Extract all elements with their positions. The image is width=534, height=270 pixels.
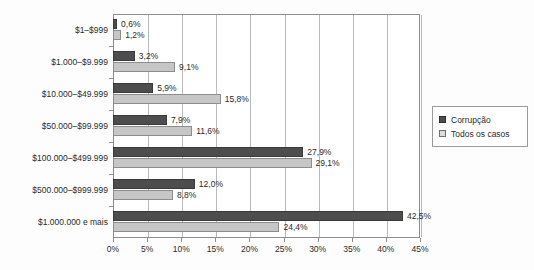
bar-value-label: 1,2% xyxy=(125,30,144,40)
y-axis-tick xyxy=(109,110,113,111)
bar-corrupcao xyxy=(113,147,303,157)
legend-label: Todos os casos xyxy=(451,129,510,139)
legend-swatch-icon xyxy=(439,116,446,123)
x-axis-tick-label: 40% xyxy=(369,244,403,254)
y-axis-labels: $1–$999$1.000–$9.999$10.000–$49.999$50.0… xyxy=(0,14,108,238)
bar-value-label: 15,8% xyxy=(225,94,249,104)
y-axis-tick xyxy=(109,142,113,143)
bar-todos-os-casos xyxy=(113,190,173,200)
x-axis-tick-label: 30% xyxy=(301,244,335,254)
chart-page: 0,6%1,2%3,2%9,1%5,9%15,8%7,9%11,6%27,9%2… xyxy=(0,0,534,270)
x-axis-tick-label: 35% xyxy=(335,244,369,254)
bar-group: 7,9%11,6% xyxy=(113,110,420,142)
bar-group: 27,9%29,1% xyxy=(113,142,420,174)
bar-value-label: 3,2% xyxy=(139,51,158,61)
bar-todos-os-casos xyxy=(113,62,175,72)
y-axis-tick xyxy=(109,78,113,79)
y-axis-tick xyxy=(109,174,113,175)
legend-entry: Todos os casos xyxy=(439,127,521,140)
bar-value-label: 29,1% xyxy=(316,158,340,168)
bar-corrupcao xyxy=(113,19,117,29)
bar-todos-os-casos xyxy=(113,126,192,136)
bar-value-label: 5,9% xyxy=(157,83,176,93)
y-axis-tick-label: $1.000.000 e mais xyxy=(0,206,108,238)
x-axis-tick-label: 25% xyxy=(267,244,301,254)
legend-swatch-icon xyxy=(439,130,446,137)
x-axis-tick-label: 45% xyxy=(403,244,437,254)
chart-legend: CorrupçãoTodos os casos xyxy=(432,106,528,147)
bar-group: 3,2%9,1% xyxy=(113,46,420,78)
bar-value-label: 27,9% xyxy=(307,147,331,157)
bar-corrupcao xyxy=(113,211,403,221)
x-axis-tick xyxy=(284,238,285,242)
x-axis-tick-label: 0% xyxy=(96,244,130,254)
y-axis-tick xyxy=(109,206,113,207)
legend-label: Corrupção xyxy=(451,115,491,125)
bar-group: 42,5%24,4% xyxy=(113,206,420,238)
x-axis-tick xyxy=(249,238,250,242)
bar-corrupcao xyxy=(113,115,167,125)
y-axis-tick xyxy=(109,46,113,47)
y-axis-tick-label: $500.000–$999.999 xyxy=(0,174,108,206)
bar-value-label: 0,6% xyxy=(121,19,140,29)
bar-todos-os-casos xyxy=(113,158,312,168)
x-axis-tick xyxy=(420,238,421,242)
bar-value-label: 42,5% xyxy=(407,211,431,221)
y-axis-tick-label: $1.000–$9.999 xyxy=(0,46,108,78)
bar-corrupcao xyxy=(113,83,153,93)
legend-entry: Corrupção xyxy=(439,113,521,126)
x-axis-tick xyxy=(181,238,182,242)
bar-value-label: 7,9% xyxy=(171,115,190,125)
x-axis-tick xyxy=(352,238,353,242)
bar-value-label: 11,6% xyxy=(196,126,219,136)
x-axis-tick-label: 5% xyxy=(130,244,164,254)
bar-groups: 0,6%1,2%3,2%9,1%5,9%15,8%7,9%11,6%27,9%2… xyxy=(113,14,420,238)
bar-value-label: 9,1% xyxy=(179,62,198,72)
gridline-45% xyxy=(421,15,422,237)
bar-group: 12,0%8,8% xyxy=(113,174,420,206)
x-axis-tick xyxy=(386,238,387,242)
bar-value-label: 12,0% xyxy=(199,179,223,189)
bar-todos-os-casos xyxy=(113,30,121,40)
y-axis-tick-label: $1–$999 xyxy=(0,14,108,46)
bar-value-label: 8,8% xyxy=(177,190,196,200)
bar-group: 0,6%1,2% xyxy=(113,14,420,46)
bar-todos-os-casos xyxy=(113,94,221,104)
y-axis-tick-label: $50.000–$99.999 xyxy=(0,110,108,142)
bar-corrupcao xyxy=(113,51,135,61)
x-axis-tick xyxy=(113,238,114,242)
x-axis-tick-label: 15% xyxy=(198,244,232,254)
x-axis-tick-label: 20% xyxy=(232,244,266,254)
x-axis-tick xyxy=(147,238,148,242)
bar-value-label: 24,4% xyxy=(283,222,307,232)
y-axis-tick-label: $10.000–$49.999 xyxy=(0,78,108,110)
y-axis-tick-label: $100.000–$499.999 xyxy=(0,142,108,174)
x-axis-tick xyxy=(215,238,216,242)
bar-group: 5,9%15,8% xyxy=(113,78,420,110)
x-axis-tick-label: 10% xyxy=(164,244,198,254)
bar-todos-os-casos xyxy=(113,222,279,232)
x-axis-tick xyxy=(318,238,319,242)
bar-corrupcao xyxy=(113,179,195,189)
